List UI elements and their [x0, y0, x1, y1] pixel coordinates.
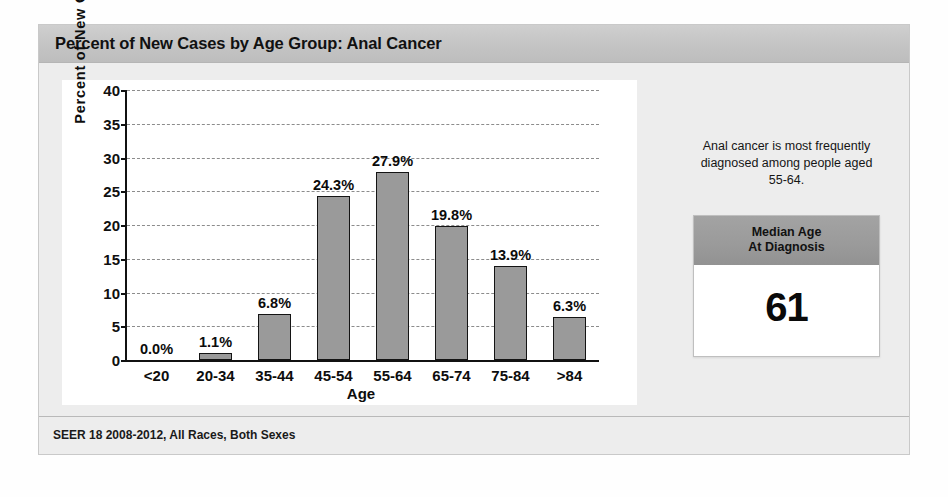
y-tick-label: 25 — [103, 183, 120, 200]
bar-value-label: 13.9% — [490, 247, 531, 263]
bar-group[interactable]: 6.8%35-44 — [245, 90, 304, 360]
chart-panel: Percent of New Cases 0510152025303540 0.… — [62, 80, 637, 405]
y-axis-title-wrap: Percent of New Cases — [80, 90, 102, 360]
side-panel: Anal cancer is most frequently diagnosed… — [679, 80, 894, 357]
bar[interactable] — [435, 226, 469, 360]
plot-area: 0510152025303540 0.0%<201.1%20-346.8%35-… — [125, 90, 599, 362]
bar-group[interactable]: 24.3%45-54 — [304, 90, 363, 360]
bar-value-label: 19.8% — [431, 207, 472, 223]
y-tick-label: 35 — [103, 115, 120, 132]
median-age-value: 61 — [694, 265, 879, 356]
y-tick-label: 5 — [112, 318, 120, 335]
bars-layer: 0.0%<201.1%20-346.8%35-4424.3%45-5427.9%… — [127, 90, 599, 360]
chart-card: Percent of New Cases by Age Group: Anal … — [38, 24, 910, 455]
page-root: Percent of New Cases by Age Group: Anal … — [0, 0, 948, 497]
y-tick-label: 40 — [103, 82, 120, 99]
y-tick-label: 15 — [103, 250, 120, 267]
bar-group[interactable]: 27.9%55-64 — [363, 90, 422, 360]
median-age-box: Median Age At Diagnosis 61 — [693, 215, 880, 357]
median-age-header-line2: At Diagnosis — [698, 240, 875, 255]
bar-group[interactable]: 1.1%20-34 — [186, 90, 245, 360]
median-age-header-line1: Median Age — [698, 225, 875, 240]
x-axis-title: Age — [125, 385, 597, 402]
bar-value-label: 6.8% — [258, 295, 291, 311]
y-tick-label: 30 — [103, 149, 120, 166]
x-tick-label: 20-34 — [196, 367, 234, 384]
y-tick-label: 20 — [103, 217, 120, 234]
x-tick-label: 55-64 — [373, 367, 411, 384]
bar-value-label: 24.3% — [313, 177, 354, 193]
y-tick-label: 0 — [112, 352, 120, 369]
bar-group[interactable]: 19.8%65-74 — [422, 90, 481, 360]
x-tick-label: >84 — [557, 367, 582, 384]
bar[interactable] — [553, 317, 587, 360]
bar[interactable] — [258, 314, 292, 360]
y-tick-label: 10 — [103, 284, 120, 301]
median-age-header: Median Age At Diagnosis — [694, 216, 879, 265]
bar-value-label: 1.1% — [199, 334, 232, 350]
y-tick-mark — [121, 360, 127, 362]
page-title: Percent of New Cases by Age Group: Anal … — [55, 34, 442, 53]
bar[interactable] — [199, 353, 233, 360]
x-tick-label: 75-84 — [491, 367, 529, 384]
bar[interactable] — [376, 172, 410, 360]
annotation-text: Anal cancer is most frequently diagnosed… — [679, 138, 894, 189]
card-header: Percent of New Cases by Age Group: Anal … — [39, 25, 909, 63]
bar-group[interactable]: 6.3%>84 — [540, 90, 599, 360]
bar[interactable] — [317, 196, 351, 360]
card-body: Percent of New Cases 0510152025303540 0.… — [39, 63, 909, 416]
bar-value-label: 6.3% — [553, 298, 586, 314]
x-tick-label: <20 — [144, 367, 169, 384]
x-tick-label: 35-44 — [255, 367, 293, 384]
card-footer: SEER 18 2008-2012, All Races, Both Sexes — [39, 416, 909, 454]
y-axis-title: Percent of New Cases — [72, 0, 92, 140]
bar-value-label: 0.0% — [140, 341, 173, 357]
x-tick-label: 45-54 — [314, 367, 352, 384]
source-note: SEER 18 2008-2012, All Races, Both Sexes — [53, 428, 295, 442]
x-tick-label: 65-74 — [432, 367, 470, 384]
bar-value-label: 27.9% — [372, 153, 413, 169]
bar-group[interactable]: 13.9%75-84 — [481, 90, 540, 360]
bar-group[interactable]: 0.0%<20 — [127, 90, 186, 360]
bar[interactable] — [494, 266, 528, 360]
